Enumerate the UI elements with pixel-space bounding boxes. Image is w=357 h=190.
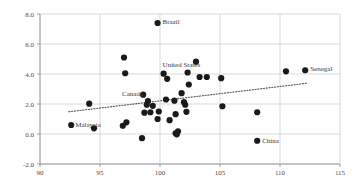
data-point[interactable] (164, 76, 170, 82)
data-point[interactable] (254, 109, 260, 115)
data-point[interactable] (219, 103, 225, 109)
scatter-chart: -2.00.02.04.06.08.0 9095100105110115 Mal… (0, 0, 357, 190)
y-tick-label: -2.0 (23, 161, 35, 169)
y-tick-label: 6.0 (25, 41, 34, 49)
data-point[interactable] (179, 90, 185, 96)
x-tick-label: 110 (275, 169, 286, 177)
data-point[interactable] (156, 108, 162, 114)
x-tick-label: 115 (335, 169, 346, 177)
data-point-label: Malaysia (75, 121, 102, 129)
data-point[interactable] (167, 117, 173, 123)
data-point-senegal[interactable] (302, 67, 308, 73)
plot-background (0, 0, 357, 190)
data-point[interactable] (197, 74, 203, 80)
data-point[interactable] (175, 128, 181, 134)
y-tick-label: 0.0 (25, 131, 34, 139)
data-point[interactable] (171, 98, 177, 104)
data-point[interactable] (150, 103, 156, 109)
data-point[interactable] (183, 109, 189, 115)
data-point-canada[interactable] (145, 98, 151, 104)
data-point-label: Brazil (163, 18, 180, 26)
x-tick-label: 90 (37, 169, 45, 177)
data-point[interactable] (121, 54, 127, 60)
data-point-label: Canada (122, 90, 144, 98)
data-point-china[interactable] (254, 138, 260, 144)
data-point[interactable] (155, 116, 161, 122)
data-point[interactable] (141, 110, 147, 116)
data-point[interactable] (182, 102, 188, 108)
data-point[interactable] (283, 68, 289, 74)
data-point-label: Senegal (310, 65, 332, 73)
x-tick-label: 105 (215, 169, 226, 177)
y-tick-label: 4.0 (25, 71, 34, 79)
y-tick-label: 8.0 (25, 11, 34, 19)
y-tick-label: 2.0 (25, 101, 34, 109)
data-point[interactable] (163, 96, 169, 102)
data-point[interactable] (186, 81, 192, 87)
data-point[interactable] (204, 74, 210, 80)
data-point[interactable] (86, 101, 92, 107)
data-point[interactable] (173, 111, 179, 117)
data-point-label: China (262, 137, 280, 145)
x-tick-label: 100 (155, 169, 166, 177)
data-point[interactable] (218, 75, 224, 81)
data-point[interactable] (122, 70, 128, 76)
data-point-united-states[interactable] (185, 69, 191, 75)
data-point[interactable] (161, 71, 167, 77)
data-point[interactable] (139, 135, 145, 141)
x-tick-label: 95 (97, 169, 105, 177)
data-point-label: United States (163, 61, 201, 69)
data-point[interactable] (123, 119, 129, 125)
data-point-malaysia[interactable] (68, 122, 74, 128)
data-point-brazil[interactable] (155, 20, 161, 26)
data-point[interactable] (147, 109, 153, 115)
chart-canvas: -2.00.02.04.06.08.0 9095100105110115 Mal… (0, 0, 357, 190)
